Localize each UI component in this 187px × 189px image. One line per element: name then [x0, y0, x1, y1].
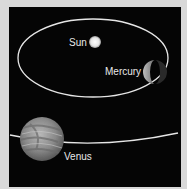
sun-icon [89, 36, 101, 48]
sun-label: Sun [69, 37, 87, 48]
venus-icon [20, 117, 64, 161]
venus-label: Venus [64, 151, 92, 162]
mercury-orbit [18, 19, 168, 97]
mercury-label: Mercury [105, 66, 141, 77]
solar-system-diagram: Sun Mercury Venus [0, 0, 187, 189]
